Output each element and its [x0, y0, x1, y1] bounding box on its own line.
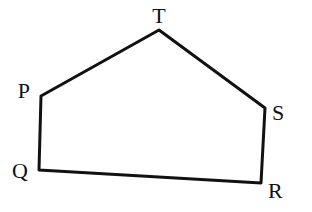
- vertex-label-t: T: [152, 3, 166, 28]
- pentagon-diagram: T S R Q P: [0, 0, 312, 212]
- vertex-labels: T S R Q P: [12, 3, 284, 203]
- vertex-label-r: R: [268, 178, 283, 203]
- pentagon-outline: [39, 30, 265, 183]
- vertex-label-q: Q: [12, 158, 28, 183]
- vertex-label-p: P: [18, 78, 30, 103]
- vertex-label-s: S: [272, 100, 284, 125]
